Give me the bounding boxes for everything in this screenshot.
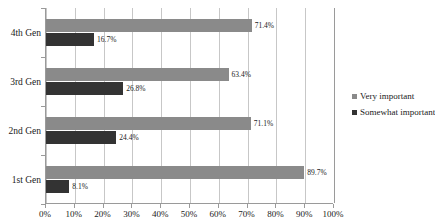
value-tick-label: 10% <box>66 209 83 220</box>
category-tick-mark <box>41 8 45 9</box>
value-tick-mark <box>189 204 190 208</box>
bar-group: 63.4%26.8% <box>46 68 333 95</box>
value-tick-mark <box>247 204 248 208</box>
bar <box>46 117 251 130</box>
bar-value-label: 26.8% <box>126 84 145 93</box>
value-tick-label: 40% <box>152 209 169 220</box>
value-tick-label: 80% <box>267 209 284 220</box>
bar-value-label: 89.7% <box>307 168 326 177</box>
value-tick-mark <box>131 204 132 208</box>
value-tick-mark <box>275 204 276 208</box>
value-tick-label: 90% <box>296 209 313 220</box>
bar <box>46 180 69 193</box>
category-label: 4th Gen <box>0 28 41 38</box>
legend-item[interactable]: Very important <box>352 91 426 102</box>
value-tick-mark <box>218 204 219 208</box>
bar-group: 71.4%16.7% <box>46 19 333 46</box>
value-tick-mark <box>160 204 161 208</box>
value-tick-mark <box>304 204 305 208</box>
legend-item[interactable]: Somewhat important <box>352 107 426 118</box>
value-tick-label: 100% <box>323 209 344 220</box>
bar-value-label: 71.1% <box>254 119 273 128</box>
bar <box>46 82 123 95</box>
legend-label: Somewhat important <box>360 107 435 118</box>
plot-area: 71.4%16.7%63.4%26.8%71.1%24.4%89.7%8.1% <box>45 8 333 204</box>
value-tick-label: 50% <box>181 209 198 220</box>
chart-legend: Very importantSomewhat important <box>352 91 426 123</box>
category-axis: 4th Gen3rd Gen2nd Gen1st Gen <box>0 8 44 204</box>
category-tick-mark <box>41 155 45 156</box>
value-tick-mark <box>333 204 334 208</box>
category-label: 1st Gen <box>0 175 41 185</box>
bar-value-label: 8.1% <box>72 182 88 191</box>
bar-value-label: 24.4% <box>119 133 138 142</box>
category-tick-mark <box>41 57 45 58</box>
legend-label: Very important <box>360 91 414 102</box>
bar-value-label: 63.4% <box>232 70 251 79</box>
bar-value-label: 71.4% <box>255 21 274 30</box>
category-tick-mark <box>41 106 45 107</box>
value-tick-label: 20% <box>94 209 111 220</box>
bar <box>46 19 252 32</box>
bar-group: 71.1%24.4% <box>46 117 333 144</box>
value-tick-mark <box>103 204 104 208</box>
value-tick-label: 0% <box>39 209 51 220</box>
bar <box>46 166 304 179</box>
category-label: 3rd Gen <box>0 77 41 87</box>
bar <box>46 33 94 46</box>
bar-groups: 71.4%16.7%63.4%26.8%71.1%24.4%89.7%8.1% <box>46 8 333 203</box>
value-tick-mark <box>74 204 75 208</box>
value-axis-labels: 0%10%20%30%40%50%60%70%80%90%100% <box>45 209 333 223</box>
category-label: 2nd Gen <box>0 126 41 136</box>
value-tick-label: 70% <box>238 209 255 220</box>
bar-group: 89.7%8.1% <box>46 166 333 193</box>
legend-swatch-icon <box>352 94 357 99</box>
gridline <box>334 8 335 203</box>
bar <box>46 131 116 144</box>
category-tick-marks <box>41 8 45 204</box>
value-tick-marks <box>45 204 333 208</box>
bar <box>46 68 229 81</box>
bar-value-label: 16.7% <box>97 35 116 44</box>
value-tick-mark <box>45 204 46 208</box>
value-tick-label: 60% <box>210 209 227 220</box>
legend-swatch-icon <box>352 110 357 115</box>
value-tick-label: 30% <box>123 209 140 220</box>
